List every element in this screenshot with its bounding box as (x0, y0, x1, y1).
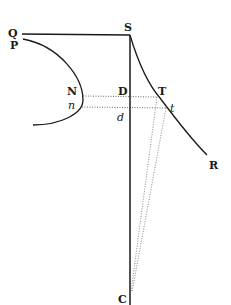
curve-STtR (130, 35, 207, 155)
dotted-tC (132, 108, 166, 292)
geometric-diagram: Q P S N n D d T t R C (0, 0, 231, 305)
label-t: t (170, 102, 175, 115)
label-T: T (158, 85, 167, 98)
label-C: C (118, 293, 127, 305)
dotted-TC (131, 97, 157, 292)
label-n: n (68, 99, 75, 112)
label-R: R (209, 159, 219, 172)
label-S: S (124, 21, 132, 34)
label-d: d (117, 111, 124, 124)
label-N: N (67, 85, 77, 98)
curve-PNn (23, 39, 83, 125)
dotted-ndt (82, 107, 167, 108)
label-D: D (118, 85, 128, 98)
label-P: P (10, 39, 18, 52)
line-QS (22, 34, 130, 35)
